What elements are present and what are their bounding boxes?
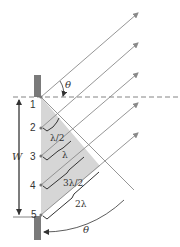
slit-wall-top (34, 75, 41, 97)
theta-arc-top (60, 81, 64, 96)
point-label-2: 2 (30, 122, 36, 133)
path-diff-label-half-lambda: λ/2 (50, 133, 64, 143)
width-label: W (12, 151, 23, 162)
point-label-4: 4 (30, 180, 36, 191)
diffraction-diagram: 1 2 3 4 5 W θ θ λ/2 λ 3λ/2 2λ (0, 0, 180, 247)
theta-label-top: θ (65, 79, 71, 90)
path-difference-triangle (41, 97, 100, 215)
path-diff-label-2-lambda: 2λ (75, 199, 87, 209)
point-label-1: 1 (30, 99, 36, 110)
point-label-5: 5 (31, 209, 37, 220)
path-diff-label-3-half-lambda: 3λ/2 (63, 178, 83, 188)
point-label-3: 3 (30, 151, 36, 162)
path-diff-label-lambda: λ (62, 150, 68, 160)
ray-1 (41, 13, 138, 97)
theta-label-bottom: θ (83, 224, 89, 235)
